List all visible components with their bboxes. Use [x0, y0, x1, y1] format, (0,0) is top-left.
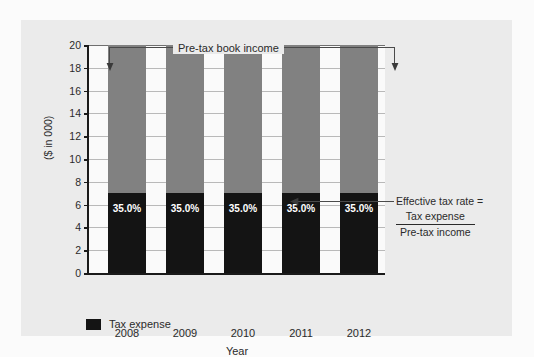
bar-data-label: 35.0% [345, 203, 373, 214]
y-tick [84, 45, 89, 47]
bar-segment-tax-expense: 35.0% [108, 193, 146, 273]
y-tick [84, 227, 89, 229]
y-tick [84, 113, 89, 115]
bar-segment-tax-expense: 35.0% [166, 193, 204, 273]
y-tick-label: 6 [75, 199, 81, 210]
annotation-arrow-into-bar-icon [290, 197, 300, 206]
annotation-effective-tax-rate: Effective tax rate = Tax expense Pre-tax… [396, 194, 483, 241]
y-tick [84, 159, 89, 161]
y-tick [84, 273, 89, 275]
bar-data-label: 35.0% [229, 203, 257, 214]
y-tick [84, 205, 89, 207]
annotation-fraction-denominator: Pre-tax income [396, 224, 475, 240]
y-tick [84, 68, 89, 70]
x-axis-title: Year [89, 345, 385, 357]
annotation-pretax-book-income: Pre-tax book income [173, 42, 284, 54]
y-tick-label: 8 [75, 177, 81, 188]
y-tick [84, 182, 89, 184]
y-tick-label: 2 [75, 245, 81, 256]
y-tick-label: 12 [69, 131, 81, 142]
legend-swatch-tax-expense [86, 319, 101, 330]
y-tick-label: 20 [69, 40, 81, 51]
y-tick-label: 10 [69, 154, 81, 165]
y-tick [84, 91, 89, 93]
annotation-leader-line [298, 201, 394, 202]
annotation-effective-tax-rate-title: Effective tax rate = [396, 194, 483, 209]
bar-segment-tax-expense: 35.0% [282, 193, 320, 273]
y-tick-label: 18 [69, 63, 81, 74]
y-tick [84, 250, 89, 252]
bar-data-label: 35.0% [113, 203, 141, 214]
x-tick-label-2012: 2012 [329, 327, 389, 339]
x-tick-label-2011: 2011 [271, 327, 331, 339]
y-tick-label: 0 [75, 268, 81, 279]
annotation-fraction-numerator: Tax expense [396, 209, 475, 224]
bar-data-label: 35.0% [171, 203, 199, 214]
annotation-fraction: Tax expense Pre-tax income [396, 209, 475, 240]
y-tick [84, 136, 89, 138]
legend-label-tax-expense: Tax expense [109, 318, 171, 330]
annotation-arrow-right-icon [390, 62, 400, 71]
plot-area: 20 18 16 14 12 10 8 6 4 2 0 [87, 45, 385, 275]
y-axis-title: ($ in 000) [42, 116, 54, 160]
annotation-arrow-left-icon [105, 62, 115, 71]
x-tick-label-2010: 2010 [213, 327, 273, 339]
bar-segment-tax-expense: 35.0% [224, 193, 262, 273]
chart-legend: Tax expense [86, 318, 171, 330]
y-tick-label: 16 [69, 85, 81, 96]
y-tick-label: 4 [75, 222, 81, 233]
y-tick-label: 14 [69, 108, 81, 119]
bar-segment-tax-expense: 35.0% [340, 193, 378, 273]
